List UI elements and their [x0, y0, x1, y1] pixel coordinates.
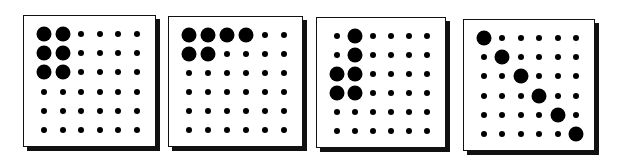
small-dot	[352, 109, 358, 115]
small-dot	[262, 127, 268, 133]
small-dot	[518, 35, 524, 41]
small-dot	[243, 108, 249, 114]
small-dot	[388, 52, 394, 58]
small-dot	[78, 50, 84, 56]
small-dot	[388, 33, 394, 39]
small-dot	[115, 127, 121, 133]
small-dot	[406, 52, 412, 58]
large-dot	[495, 50, 510, 65]
small-dot	[78, 127, 84, 133]
small-dot	[134, 89, 140, 95]
small-dot	[536, 112, 542, 118]
small-dot	[573, 112, 579, 118]
small-dot	[573, 35, 579, 41]
small-dot	[78, 89, 84, 95]
small-dot	[573, 93, 579, 99]
small-dot	[536, 35, 542, 41]
small-dot	[78, 108, 84, 114]
small-dot	[97, 69, 103, 75]
large-dot	[477, 31, 492, 46]
small-dot	[555, 54, 561, 60]
small-dot	[424, 109, 430, 115]
small-dot	[78, 69, 84, 75]
small-dot	[370, 52, 376, 58]
small-dot	[60, 89, 66, 95]
small-dot	[555, 93, 561, 99]
small-dot	[555, 73, 561, 79]
small-dot	[134, 31, 140, 37]
large-dot	[182, 47, 197, 62]
grid-panel-3	[316, 17, 446, 148]
small-dot	[224, 108, 230, 114]
small-dot	[518, 54, 524, 60]
small-dot	[352, 128, 358, 134]
small-dot	[481, 73, 487, 79]
small-dot	[115, 89, 121, 95]
large-dot	[55, 65, 70, 80]
small-dot	[424, 90, 430, 96]
small-dot	[281, 108, 287, 114]
small-dot	[370, 71, 376, 77]
small-dot	[499, 73, 505, 79]
small-dot	[281, 89, 287, 95]
small-dot	[555, 35, 561, 41]
small-dot	[388, 109, 394, 115]
small-dot	[499, 131, 505, 137]
small-dot	[424, 128, 430, 134]
large-dot	[182, 28, 197, 43]
large-dot	[37, 27, 52, 42]
small-dot	[97, 127, 103, 133]
small-dot	[41, 127, 47, 133]
small-dot	[499, 35, 505, 41]
small-dot	[41, 108, 47, 114]
small-dot	[388, 128, 394, 134]
small-dot	[60, 127, 66, 133]
small-dot	[115, 50, 121, 56]
small-dot	[97, 108, 103, 114]
small-dot	[78, 31, 84, 37]
small-dot	[536, 131, 542, 137]
small-dot	[481, 112, 487, 118]
small-dot	[243, 51, 249, 57]
large-dot	[201, 28, 216, 43]
large-dot	[348, 86, 363, 101]
grid-panel-1	[23, 15, 156, 147]
small-dot	[406, 90, 412, 96]
small-dot	[224, 51, 230, 57]
large-dot	[55, 27, 70, 42]
small-dot	[224, 89, 230, 95]
small-dot	[97, 89, 103, 95]
grid-panel-2	[168, 16, 303, 147]
small-dot	[262, 70, 268, 76]
small-dot	[186, 89, 192, 95]
small-dot	[424, 52, 430, 58]
small-dot	[115, 31, 121, 37]
small-dot	[424, 71, 430, 77]
small-dot	[518, 112, 524, 118]
small-dot	[243, 127, 249, 133]
small-dot	[334, 52, 340, 58]
small-dot	[406, 109, 412, 115]
large-dot	[348, 48, 363, 63]
small-dot	[97, 31, 103, 37]
small-dot	[281, 70, 287, 76]
small-dot	[281, 32, 287, 38]
large-dot	[550, 107, 565, 122]
small-dot	[370, 33, 376, 39]
large-dot	[201, 47, 216, 62]
small-dot	[186, 70, 192, 76]
small-dot	[388, 90, 394, 96]
small-dot	[205, 108, 211, 114]
large-dot	[348, 29, 363, 44]
small-dot	[481, 131, 487, 137]
large-dot	[55, 46, 70, 61]
small-dot	[281, 51, 287, 57]
large-dot	[37, 46, 52, 61]
small-dot	[60, 108, 66, 114]
large-dot	[37, 65, 52, 80]
large-dot	[348, 67, 363, 82]
large-dot	[513, 69, 528, 84]
small-dot	[186, 108, 192, 114]
small-dot	[499, 112, 505, 118]
small-dot	[97, 50, 103, 56]
